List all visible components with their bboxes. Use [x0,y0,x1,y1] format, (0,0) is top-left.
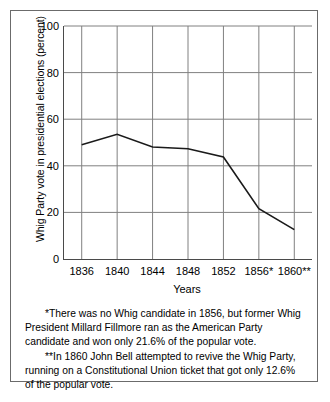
y-tick-label: 0 [53,253,59,265]
x-tick-label: 1844 [140,265,164,277]
x-tick-label: 1840 [105,265,129,277]
footnote-1856: *There was no Whig candidate in 1856, bu… [25,307,305,350]
y-tick-label: 20 [47,206,59,218]
y-axis-title: Whig Party vote in presidential election… [34,4,46,254]
footnote-1860: **In 1860 John Bell attempted to revive … [25,350,305,393]
chart-area: Whig Party vote in presidential election… [11,11,319,301]
y-tick-label: 60 [47,113,59,125]
y-tick-label: 40 [47,160,59,172]
x-tick-label: 1856* [244,265,273,277]
figure-panel: Whig Party vote in presidential election… [10,10,318,382]
x-axis-title: Years [63,283,311,295]
vertical-gridlines [82,26,295,259]
x-tick-label: 1836 [69,265,93,277]
y-tick-label: 100 [41,20,59,32]
footnotes-block: *There was no Whig candidate in 1856, bu… [25,307,305,392]
x-tick-label: 1852 [211,265,235,277]
chart-svg [64,26,312,259]
y-tick-label: 80 [47,67,59,79]
x-tick-label: 1848 [176,265,200,277]
x-tick-label: 1860** [278,265,311,277]
plot-region: 020406080100 183618401844184818521856*18… [63,26,312,260]
